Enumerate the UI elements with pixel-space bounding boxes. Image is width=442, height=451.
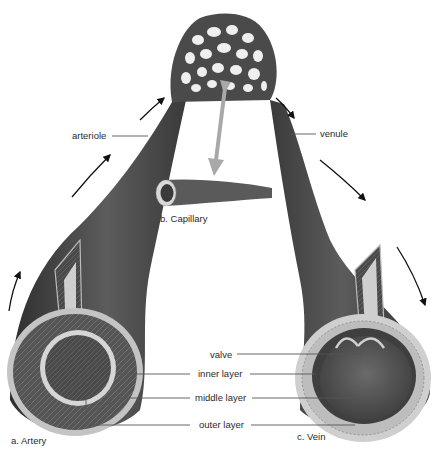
label-capillary: b. Capillary [160,214,208,224]
label-venule: venule [320,129,348,139]
label-artery: a. Artery [11,436,46,446]
label-middle-layer: middle layer [195,393,246,403]
artery-vessel [7,100,186,436]
label-arteriole: arteriole [72,131,106,141]
label-outer-layer: outer layer [199,420,244,430]
label-vein: c. Vein [297,432,326,442]
label-inner-layer: inner layer [198,369,242,379]
vessel-illustration [0,0,442,451]
diagram-canvas: arteriole venule b. Capillary valve inne… [0,0,442,451]
label-valve: valve [210,350,232,360]
capillary-tube [156,179,272,206]
vein-vessel [270,100,431,442]
